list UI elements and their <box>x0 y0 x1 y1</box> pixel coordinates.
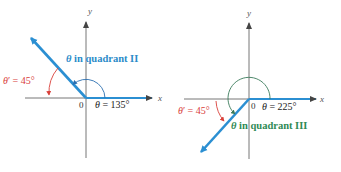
origin-label: 0 <box>79 100 84 110</box>
reference-angle-label: θ′ = 45° <box>3 75 35 86</box>
reference-angle-label: θ′ = 45° <box>178 105 210 116</box>
origin-label: 0 <box>251 101 256 111</box>
quadrant-label: θ in quadrant III <box>231 120 307 131</box>
reference-angle-arc <box>216 101 224 121</box>
x-axis-label: x <box>319 94 324 104</box>
terminal-ray <box>31 38 86 98</box>
right-figure: x y 0 θ = 225° θ′ = 45° θ in quadrant II… <box>178 8 324 159</box>
y-axis-label: y <box>246 8 251 18</box>
theta-label: θ = 225° <box>262 101 297 112</box>
quadrant-label: θ in quadrant II <box>66 53 138 64</box>
x-axis-label: x <box>157 93 162 103</box>
theta-label: θ = 135° <box>95 99 130 110</box>
reference-angle-diagrams: x y 0 θ = 135° θ′ = 45° θ in quadrant II… <box>0 0 341 172</box>
y-axis-label: y <box>87 6 92 16</box>
left-figure: x y 0 θ = 135° θ′ = 45° θ in quadrant II <box>3 6 162 158</box>
reference-angle-arc <box>49 68 58 95</box>
